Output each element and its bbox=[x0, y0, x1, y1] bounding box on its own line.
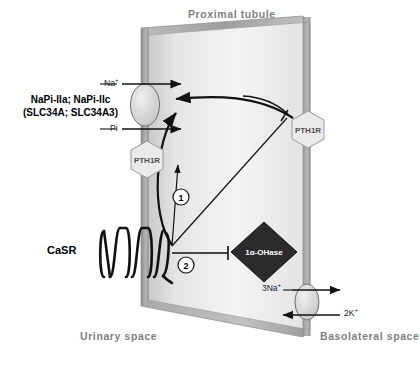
casr-helix-1 bbox=[100, 231, 104, 277]
napi-transporter-label: NaPi-IIa; NaPi-IIc (SLC34A; SLC34A3) bbox=[8, 94, 133, 119]
sodium-ion-label: Na+ bbox=[104, 78, 118, 88]
casr-helix-3 bbox=[126, 228, 130, 277]
sodium-ion-text: Na bbox=[104, 78, 115, 88]
napi-name-line: NaPi-IIa; NaPi-IIc bbox=[8, 94, 133, 107]
casr-link-1 bbox=[104, 231, 110, 277]
napi-transporter-body bbox=[131, 84, 160, 126]
sodium-charge: + bbox=[115, 76, 119, 83]
basolateral-pth1r-label: PTH1R bbox=[295, 126, 321, 135]
casr-helix-2 bbox=[110, 228, 120, 277]
basolateral-space-label: Basolateral space bbox=[320, 330, 420, 342]
sodium-efflux-charge: + bbox=[278, 281, 282, 288]
apical-pth1r-label: PTH1R bbox=[134, 156, 160, 165]
napi-gene-line: (SLC34A; SLC34A3) bbox=[8, 107, 133, 120]
sodium-efflux-text: 3Na bbox=[262, 283, 278, 293]
potassium-influx-text: 2K bbox=[344, 308, 354, 318]
diagram-title: Proximal tubule bbox=[188, 8, 276, 20]
napi-cotransporter[interactable] bbox=[131, 84, 160, 126]
marker-one-text: 1 bbox=[178, 193, 183, 203]
pathway-marker-two: 2 bbox=[178, 257, 194, 273]
casr-label: CaSR bbox=[47, 244, 76, 256]
phosphate-ion-label: Pi bbox=[110, 123, 118, 133]
potassium-charge: + bbox=[354, 306, 358, 313]
sodium-efflux-label: 3Na+ bbox=[262, 283, 281, 293]
potassium-influx-label: 2K+ bbox=[344, 308, 358, 318]
proximal-tubule-cell bbox=[141, 16, 311, 337]
marker-two-text: 2 bbox=[183, 261, 188, 271]
urinary-space-label: Urinary space bbox=[80, 330, 157, 342]
ohase-label: 1α-OHase bbox=[245, 248, 283, 257]
pathway-marker-one: 1 bbox=[173, 189, 189, 205]
casr-helix-4 bbox=[132, 228, 142, 277]
pathway-diagram: PTH1R PTH1R 1α-OHase bbox=[0, 0, 420, 365]
